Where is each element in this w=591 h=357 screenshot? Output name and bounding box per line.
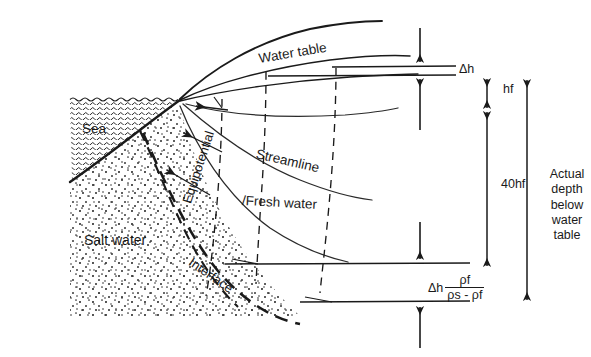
actual-depth-line-5: table bbox=[545, 228, 589, 243]
water-table-lower-line bbox=[180, 74, 418, 101]
equipotential-tick bbox=[214, 97, 222, 108]
streamline-1 bbox=[186, 104, 398, 116]
actual-depth-line-2: depth bbox=[545, 182, 589, 197]
actual-depth-line-1: Actual bbox=[545, 167, 589, 182]
actual-depth-line-3: below bbox=[545, 198, 589, 213]
delta-h-label: Δh bbox=[459, 63, 474, 77]
equipotential-4 bbox=[320, 68, 336, 293]
formula-lead: Δh bbox=[428, 281, 443, 295]
diagram-canvas: Sea Salt water Water table Streamline /F… bbox=[0, 0, 591, 357]
salt-water-label: Salt water bbox=[84, 233, 146, 248]
depth-ref-line-upper bbox=[225, 263, 470, 264]
sea-label: Sea bbox=[82, 122, 106, 137]
actual-depth-label: Actual depth below water table bbox=[545, 167, 589, 243]
formula-denominator: ρs - ρf bbox=[445, 287, 484, 302]
equipotential-3 bbox=[256, 72, 266, 284]
ghyben-herzberg-formula: Δh ρf ρs - ρf bbox=[428, 273, 484, 302]
actual-depth-line-4: water bbox=[545, 213, 589, 228]
formula-fraction: ρf ρs - ρf bbox=[445, 273, 484, 302]
delta-h-upper-ref-line bbox=[332, 66, 456, 67]
formula-numerator: ρf bbox=[458, 273, 473, 287]
delta-h-lower-ref-line bbox=[268, 75, 456, 76]
forty-hf-label: 40hf bbox=[501, 178, 525, 192]
hf-label: hf bbox=[503, 83, 513, 97]
